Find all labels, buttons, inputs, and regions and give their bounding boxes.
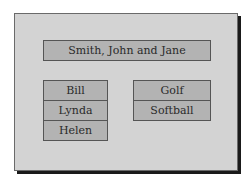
list-item-child: Lynda xyxy=(44,101,107,121)
family-name-box: Smith, John and Jane xyxy=(43,40,211,61)
record-panel: Smith, John and Jane Bill Lynda Helen Go… xyxy=(14,13,238,171)
list-item-activity: Softball xyxy=(134,101,210,121)
activities-list: Golf Softball xyxy=(133,80,211,121)
list-item-activity: Golf xyxy=(134,81,210,101)
list-item-child: Bill xyxy=(44,81,107,101)
list-item-child: Helen xyxy=(44,121,107,141)
children-list: Bill Lynda Helen xyxy=(43,80,108,141)
